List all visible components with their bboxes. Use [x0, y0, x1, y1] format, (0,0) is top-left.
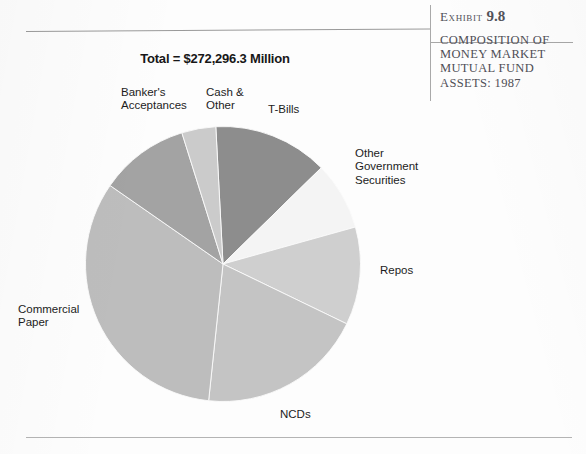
page-canvas: Exhibit 9.8 COMPOSITION OF MONEY MARKET … — [0, 0, 586, 454]
pie-label-bankers-acceptances: Banker's Acceptances — [121, 86, 187, 113]
pie-label-bankers-line2: Acceptances — [121, 99, 187, 112]
pie-chart-svg — [85, 126, 361, 402]
pie-label-repos: Repos — [380, 264, 413, 277]
exhibit-title-line-1: COMPOSITION OF — [440, 33, 578, 47]
chart-title: Total = $272,296.3 Million — [0, 51, 430, 66]
pie-label-ncds: NCDs — [280, 408, 311, 421]
pie-label-cash-line1: Cash & — [206, 86, 244, 99]
footer-rule — [26, 437, 572, 438]
exhibit-caption-block: Exhibit 9.8 COMPOSITION OF MONEY MARKET … — [440, 8, 578, 90]
pie-label-other-government-securities: Other Government Securities — [355, 147, 418, 187]
exhibit-title-line-4: ASSETS: 1987 — [440, 76, 578, 90]
exhibit-title-line-3: MUTUAL FUND — [440, 61, 578, 75]
exhibit-title: COMPOSITION OF MONEY MARKET MUTUAL FUND … — [440, 33, 578, 90]
pie-label-othergov-line1: Other — [355, 147, 418, 160]
pie-label-commercial-paper: Commercial Paper — [18, 303, 79, 330]
header-rule-left — [26, 29, 430, 32]
pie-label-commpaper-line1: Commercial — [18, 303, 79, 316]
exhibit-divider-rule — [430, 5, 431, 101]
pie-label-othergov-line3: Securities — [355, 174, 418, 187]
exhibit-eyebrow-number: 9.8 — [487, 8, 506, 24]
pie-label-cash-other: Cash & Other — [206, 86, 244, 113]
pie-label-t-bills: T-Bills — [268, 103, 299, 116]
pie-chart — [85, 126, 361, 402]
pie-label-bankers-line1: Banker's — [121, 86, 187, 99]
pie-label-commpaper-line2: Paper — [18, 316, 79, 329]
exhibit-eyebrow: Exhibit 9.8 — [440, 8, 578, 25]
exhibit-title-line-2: MONEY MARKET — [440, 47, 578, 61]
exhibit-eyebrow-word: Exhibit — [440, 9, 483, 24]
pie-label-cash-line2: Other — [206, 99, 244, 112]
pie-label-othergov-line2: Government — [355, 160, 418, 173]
